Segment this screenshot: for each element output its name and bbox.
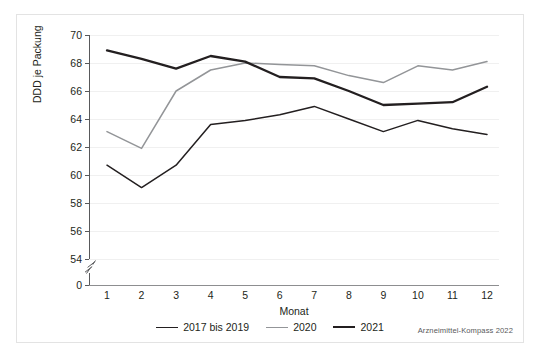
x-tick-label: 5 xyxy=(242,289,248,301)
legend-item[interactable]: 2021 xyxy=(333,321,383,333)
source-note: Arzneimittel-Kompass 2022 xyxy=(418,326,513,335)
y-tick-label: 56 xyxy=(70,225,82,237)
y-tick-label: 60 xyxy=(70,169,82,181)
series-lines xyxy=(89,35,499,285)
x-tick-label: 1 xyxy=(104,289,110,301)
y-axis-title: DDD je Packung xyxy=(31,25,43,103)
x-tick-label: 11 xyxy=(447,289,458,301)
legend-label: 2020 xyxy=(293,321,316,333)
x-tick-label: 6 xyxy=(277,289,283,301)
y-tick-label: 70 xyxy=(70,29,82,41)
x-tick-label: 4 xyxy=(208,289,214,301)
legend-label: 2017 bis 2019 xyxy=(183,321,249,333)
plot-area: 7068666462605856540 123456789101112 xyxy=(89,35,499,285)
y-tick-label: 64 xyxy=(70,113,82,125)
legend-label: 2021 xyxy=(360,321,383,333)
x-axis-title: Monat xyxy=(89,305,499,317)
x-tick-label: 10 xyxy=(412,289,424,301)
y-tick-label: 58 xyxy=(70,197,82,209)
y-tick-label: 68 xyxy=(70,57,82,69)
y-tick-label: 0 xyxy=(76,279,82,291)
legend-line-swatch xyxy=(266,327,288,328)
series-line xyxy=(107,50,487,105)
x-tick-label: 7 xyxy=(311,289,317,301)
chart-figure: DDD je Packung 7068666462605856540 12345… xyxy=(16,14,524,343)
series-line xyxy=(107,106,487,187)
y-tick-label: 66 xyxy=(70,85,82,97)
y-tick-mark xyxy=(85,285,89,286)
y-tick-label: 54 xyxy=(70,253,82,265)
x-tick-label: 2 xyxy=(139,289,145,301)
series-line xyxy=(107,62,487,149)
legend-item[interactable]: 2020 xyxy=(266,321,316,333)
legend-line-swatch xyxy=(333,326,355,328)
legend-item[interactable]: 2017 bis 2019 xyxy=(156,321,249,333)
x-axis-line xyxy=(89,285,499,286)
x-tick-label: 3 xyxy=(173,289,179,301)
y-tick-label: 62 xyxy=(70,141,82,153)
x-tick-label: 9 xyxy=(380,289,386,301)
x-tick-label: 8 xyxy=(346,289,352,301)
x-tick-label: 12 xyxy=(481,289,493,301)
legend-line-swatch xyxy=(156,327,178,328)
